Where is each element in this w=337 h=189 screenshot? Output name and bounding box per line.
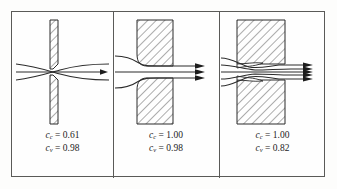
cv-equals: = <box>55 143 60 153</box>
panel-1-caption: cc = 0.61 cv = 0.98 <box>12 130 113 155</box>
panel-2-diagram <box>113 12 219 132</box>
cc-subscript: c <box>50 133 53 140</box>
coefficient-cc-line: cc = 1.00 <box>113 130 219 143</box>
cv-equals: = <box>265 143 270 153</box>
nozzle-block-upper <box>137 20 173 66</box>
cc-subscript: c <box>153 133 156 140</box>
cv-subscript: v <box>153 146 156 153</box>
panel-1-diagram <box>12 12 113 132</box>
orifice-plate-upper <box>50 20 58 69</box>
exit-arrows <box>303 62 313 81</box>
exit-arrows <box>195 63 205 81</box>
cv-subscript: v <box>260 146 263 153</box>
nozzle-block-lower <box>137 78 173 124</box>
panel-2-caption: cc = 1.00 cv = 0.98 <box>113 130 219 155</box>
flow-arrow-center <box>100 69 108 75</box>
figure-frame: cc = 0.61 cv = 0.98 <box>11 11 325 177</box>
cv-subscript: v <box>50 146 53 153</box>
streamlines <box>16 64 109 80</box>
figure-root: cc = 0.61 cv = 0.98 <box>0 0 337 189</box>
coefficient-cc-line: cc = 0.61 <box>12 130 113 143</box>
cc-equals: = <box>55 130 60 140</box>
panel-rounded-bellmouth-nozzle: cc = 1.00 cv = 0.98 <box>113 12 219 178</box>
duct-block-lower <box>237 80 285 124</box>
orifice-plate-lower <box>50 75 58 124</box>
panel-3-caption: cc = 1.00 cv = 0.82 <box>219 130 326 155</box>
panel-sharp-edged-orifice: cc = 0.61 cv = 0.98 <box>12 12 113 178</box>
cv-value: 0.98 <box>166 143 183 153</box>
coefficient-cc-line: cc = 1.00 <box>219 130 326 143</box>
cc-value: 1.00 <box>273 130 290 140</box>
cc-value: 0.61 <box>63 130 80 140</box>
panel-square-edged-entry: cc = 1.00 cv = 0.82 <box>219 12 326 178</box>
cc-subscript: c <box>260 133 263 140</box>
panel-3-diagram <box>219 12 326 132</box>
cv-value: 0.82 <box>273 143 290 153</box>
coefficient-cv-line: cv = 0.98 <box>113 143 219 156</box>
duct-block-upper <box>237 20 285 64</box>
cv-equals: = <box>159 143 164 153</box>
cc-equals: = <box>159 130 164 140</box>
coefficient-cv-line: cv = 0.82 <box>219 143 326 156</box>
cc-value: 1.00 <box>166 130 183 140</box>
cc-equals: = <box>265 130 270 140</box>
cv-value: 0.98 <box>63 143 80 153</box>
coefficient-cv-line: cv = 0.98 <box>12 143 113 156</box>
